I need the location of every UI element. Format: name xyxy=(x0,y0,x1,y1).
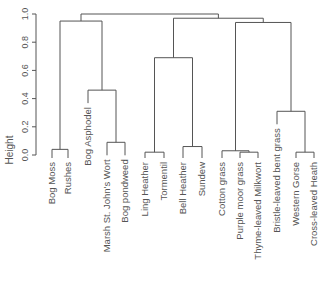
y-tick-label: 0.2 xyxy=(20,121,30,134)
leaf-label: Thyme-leaved Milkwort xyxy=(252,162,263,260)
leaf-label: Tormentil xyxy=(158,162,169,201)
y-axis-title: Height xyxy=(4,135,15,164)
y-tick-label: 1.0 xyxy=(20,8,30,21)
leaf-label: Ling Heather xyxy=(139,162,150,216)
leaf-label: Rushes xyxy=(62,162,73,194)
leaf-label: Bog Moss xyxy=(46,162,57,204)
leaf-label: Bristle-leaved bent grass xyxy=(271,128,282,233)
leaf-label: Purple moor grass xyxy=(234,162,245,240)
y-axis: 0.00.20.40.60.81.0 xyxy=(20,8,36,162)
leaf-label: Bell Heather xyxy=(177,162,188,214)
leaf-label: Cross-leaved Heath xyxy=(308,162,318,246)
leaf-label: Western Gorse xyxy=(290,162,301,226)
leaf-label: Bog pondweed xyxy=(119,159,130,222)
leaf-label: Marsh St. John's Wort xyxy=(101,159,112,252)
leaf-label: Bog Asphodel xyxy=(82,107,93,166)
leaf-labels: Bog MossRushesBog AsphodelMarsh St. John… xyxy=(46,107,318,260)
dendrogram-plot: 0.00.20.40.60.81.0 Bog MossRushesBog Asp… xyxy=(0,0,318,300)
y-tick-label: 0.0 xyxy=(20,149,30,162)
y-tick-label: 0.4 xyxy=(20,92,30,105)
leaf-label: Sundew xyxy=(196,162,207,196)
leaf-label: Cotton grass xyxy=(216,162,227,216)
y-tick-label: 0.8 xyxy=(20,36,30,49)
y-tick-label: 0.6 xyxy=(20,64,30,77)
